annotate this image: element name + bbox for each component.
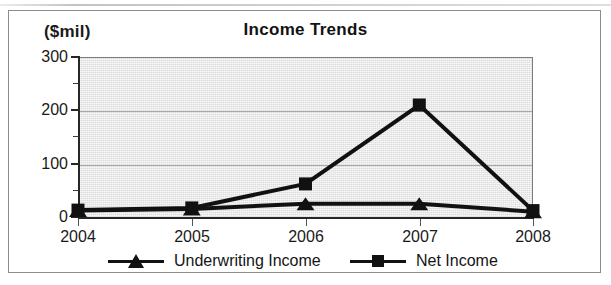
square-marker-icon: [350, 251, 406, 271]
legend-entry-net-income[interactable]: Net Income: [350, 250, 498, 272]
net-income-point-2007: [413, 99, 426, 112]
series-plot-layer: [0, 0, 611, 285]
legend-label-net-income: Net Income: [416, 252, 498, 270]
legend-entry-underwriting-income[interactable]: Underwriting Income: [108, 250, 321, 272]
legend-label-underwriting-income: Underwriting Income: [174, 252, 321, 270]
triangle-marker-icon: [108, 251, 164, 271]
net-income-point-2006: [299, 177, 312, 190]
chart-legend: Underwriting Income Net Income: [78, 250, 533, 274]
net-income-series-line: [78, 105, 533, 211]
income-trends-chart-figure: ($mil) Income Trends 300 200 100 0 2004 …: [0, 0, 611, 285]
